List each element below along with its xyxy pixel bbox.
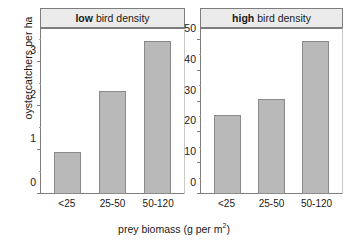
bar-high-25-50 [258, 99, 285, 194]
panel-low-title: low bird density [40, 8, 185, 28]
bar-slot-high-2 [294, 29, 338, 194]
plot-area-high: 0 10 20 30 40 50 [200, 28, 343, 194]
bar-low-50-120 [144, 41, 171, 194]
x-ticklabel-low-0: <25 [44, 198, 90, 209]
y-ticklabel-low-2: 2 [30, 88, 36, 100]
x-ticklabel-low-1: 25-50 [90, 198, 136, 209]
y-ticklabel-high-30: 30 [184, 84, 196, 96]
y-ticklabel-high-40: 40 [184, 53, 196, 65]
bar-slot-high-1 [249, 29, 293, 194]
x-axis-title-tail: ) [226, 223, 230, 235]
x-ticklabels-low: <25 25-50 50-120 [40, 194, 185, 209]
y-axis-title: oystercatchers per ha [22, 0, 34, 148]
plot-area-low: 0 1 2 3 [40, 28, 185, 194]
bar-slot-low-2 [135, 29, 180, 194]
bars-low [41, 29, 184, 194]
panel-low-title-rest: bird density [96, 12, 150, 24]
bars-high [201, 29, 342, 194]
y-ticklabel-high-50: 50 [184, 22, 196, 34]
x-ticklabel-high-1: 25-50 [249, 198, 294, 209]
panel-low-bird-density: low bird density 0 1 2 3 [40, 8, 185, 209]
bar-chart-figure: oystercatchers per ha low bird density 0… [0, 0, 348, 245]
bar-high-50-120 [302, 41, 329, 194]
x-ticklabel-high-2: 50-120 [294, 198, 339, 209]
x-ticklabel-low-2: 50-120 [135, 198, 181, 209]
panel-high-title: high bird density [200, 8, 343, 28]
bar-slot-low-0 [45, 29, 90, 194]
panel-high-title-strong: high [232, 12, 254, 24]
x-ticklabel-high-0: <25 [204, 198, 249, 209]
y-ticklabel-low-1: 1 [30, 132, 36, 144]
bar-high-lt25 [214, 115, 241, 194]
bar-slot-low-1 [90, 29, 135, 194]
panel-high-bird-density: high bird density 0 10 20 30 40 50 [200, 8, 343, 209]
panel-high-title-rest: bird density [257, 12, 311, 24]
x-ticklabels-high: <25 25-50 50-120 [200, 194, 343, 209]
x-axis-title: prey biomass (g per m2) [0, 222, 348, 235]
y-ticklabel-low-3: 3 [30, 44, 36, 56]
bar-low-lt25 [54, 152, 81, 194]
y-ticklabel-high-20: 20 [184, 114, 196, 126]
x-axis-title-base: prey biomass (g per m [118, 223, 222, 235]
panel-low-title-strong: low [75, 12, 93, 24]
y-ticklabel-high-0: 0 [190, 176, 196, 188]
y-ticklabel-low-0: 0 [30, 176, 36, 188]
y-ticklabel-high-10: 10 [184, 145, 196, 157]
bar-slot-high-0 [205, 29, 249, 194]
bar-low-25-50 [99, 91, 126, 194]
